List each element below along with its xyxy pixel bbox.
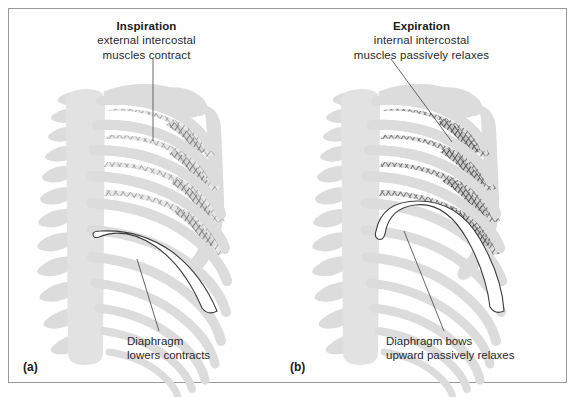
panel-a-diaphragm-annotation: Diaphragm lowers contracts: [127, 334, 210, 363]
panel-inspiration: Inspiration external intercostal muscles…: [9, 9, 284, 382]
respiration-figure: Inspiration external intercostal muscles…: [0, 0, 579, 397]
panel-expiration: Expiration internal intercostal muscles …: [284, 9, 559, 382]
panel-a-annot-line1: Diaphragm: [127, 334, 210, 348]
panel-a-illustration: [9, 9, 284, 382]
panel-b-diaphragm-annotation: Diaphragm bows upward passively relaxes: [386, 334, 514, 363]
panel-label-a: (a): [23, 360, 38, 374]
panel-b-annot-line1: Diaphragm bows: [386, 334, 514, 348]
panel-b-annot-line2: upward passively relaxes: [386, 348, 514, 362]
panel-label-b: (b): [290, 360, 305, 374]
panel-a-annot-line2: lowers contracts: [127, 348, 210, 362]
panel-b-illustration: [284, 9, 559, 382]
